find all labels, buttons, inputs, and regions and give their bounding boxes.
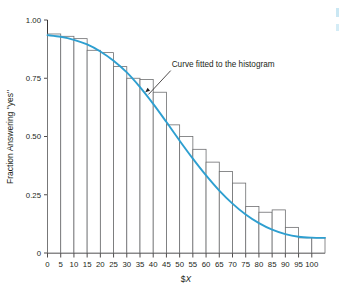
x-tick-label: 20 — [96, 260, 105, 269]
x-tick-label: 30 — [122, 260, 131, 269]
y-tick-label: 0.50 — [26, 132, 42, 141]
x-tick-label: 95 — [294, 260, 303, 269]
histogram-bar — [153, 92, 166, 253]
x-tick-label: 60 — [202, 260, 211, 269]
x-tick-label: 85 — [268, 260, 277, 269]
histogram-bar — [285, 227, 298, 253]
y-tick-label: 1.00 — [26, 16, 42, 25]
histogram-bar — [127, 78, 140, 253]
x-tick-label: 75 — [241, 260, 250, 269]
histogram-chart: 00.250.500.751.00 0510152025303540455055… — [0, 0, 346, 292]
histogram-bar — [166, 125, 179, 253]
annotation-label: Curve fitted to the histogram — [172, 60, 275, 69]
x-tick-label: 45 — [162, 260, 171, 269]
x-tick-label: 5 — [59, 260, 64, 269]
histogram-bar — [140, 79, 153, 253]
histogram-bar — [48, 34, 61, 253]
histogram-bar — [180, 137, 193, 254]
histogram-bar — [206, 162, 219, 253]
x-tick-label: 25 — [109, 260, 118, 269]
y-tick-label: 0.75 — [26, 74, 42, 83]
histogram-bar — [100, 53, 113, 253]
x-tick-label: 10 — [70, 260, 79, 269]
histogram-bar — [259, 212, 272, 253]
histogram-bar — [219, 171, 232, 253]
x-tick-label: 35 — [136, 260, 145, 269]
x-tick-label: 50 — [175, 260, 184, 269]
histogram-bar — [233, 183, 246, 253]
x-tick-label: 65 — [215, 260, 224, 269]
histogram-bar — [87, 50, 100, 253]
y-axis-title: Fraction Answering "yes" — [5, 90, 15, 184]
histogram-bar — [193, 149, 206, 253]
histogram-bar — [299, 238, 312, 253]
y-tick-label: 0.25 — [26, 191, 42, 200]
x-tick-label: 100 — [305, 260, 319, 269]
histogram-bar — [246, 206, 259, 253]
x-tick-label: 90 — [281, 260, 290, 269]
histogram-bar — [114, 67, 127, 253]
x-tick-label: 15 — [83, 260, 92, 269]
y-tick-label: 0 — [37, 249, 42, 258]
x-tick-label: 40 — [149, 260, 158, 269]
histogram-bar — [74, 39, 87, 253]
x-tick-label: 55 — [189, 260, 198, 269]
histogram-bar — [312, 238, 325, 253]
x-axis-title: $X — [181, 274, 192, 284]
x-tick-label: 70 — [228, 260, 237, 269]
x-tick-label: 80 — [255, 260, 264, 269]
histogram-bar — [61, 36, 74, 253]
x-tick-label: 0 — [45, 260, 50, 269]
